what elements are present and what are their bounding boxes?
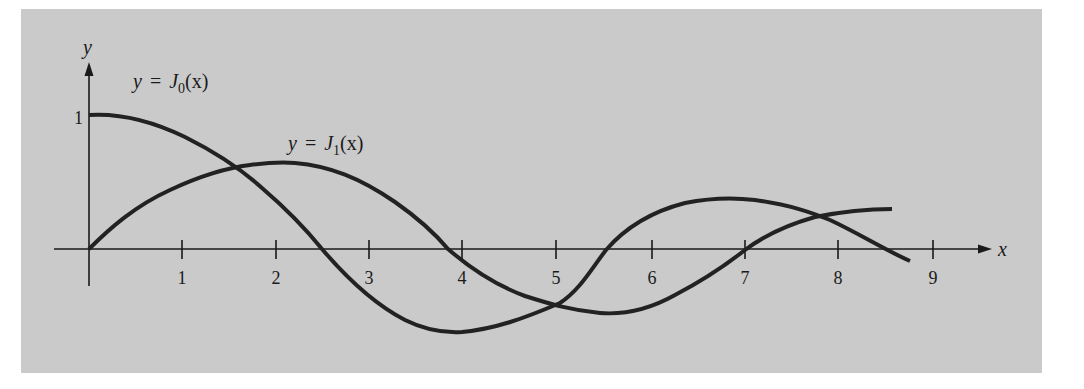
j1-label: y=J1(x) — [286, 132, 363, 158]
x-tick-label: 1 — [178, 268, 187, 288]
y-axis-arrow-icon — [85, 62, 94, 76]
x-axis-arrow-icon — [978, 245, 992, 254]
x-axis: x — [54, 238, 1007, 260]
x-tick-label: 6 — [648, 268, 657, 288]
x-tick-label: 8 — [834, 268, 843, 288]
j0-label: y=J0(x) — [131, 70, 208, 96]
x-tick-label: 4 — [458, 268, 467, 288]
x-tick-label: 3 — [365, 268, 374, 288]
x-tick-label: 7 — [741, 268, 750, 288]
y-tick-label-1: 1 — [74, 108, 83, 128]
y-axis-label: y — [81, 36, 92, 59]
x-tick-label: 2 — [272, 268, 281, 288]
x-axis-label: x — [997, 238, 1007, 260]
j0-curve — [89, 115, 910, 333]
x-tick-labels: 1 2 3 4 5 6 7 8 9 — [178, 268, 938, 288]
j1-curve — [89, 163, 892, 314]
x-tick-label: 9 — [929, 268, 938, 288]
x-tick-label: 5 — [552, 268, 561, 288]
bessel-chart: x y 1 1 2 3 4 5 6 7 8 9 y=J0(x) y= — [0, 0, 1084, 389]
